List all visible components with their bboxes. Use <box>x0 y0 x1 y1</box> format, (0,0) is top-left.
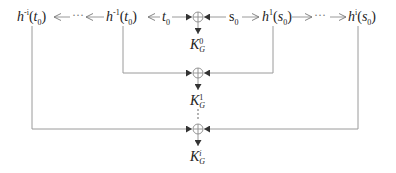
vertical-ellipsis <box>197 109 199 119</box>
ellipsis-right: ··· <box>314 9 326 21</box>
xor-node-0 <box>193 12 203 22</box>
output-k-g-0: K0G <box>190 38 205 54</box>
diagram-lines <box>0 0 396 173</box>
output-k-g-1: K1G <box>190 94 205 110</box>
label-t0: t0 <box>162 10 170 24</box>
label-h-minus-1-t0: h-1(t0) <box>106 10 137 24</box>
label-h-minus-i-t0: h-i(t0) <box>17 10 46 24</box>
output-k-g-i: KiG <box>190 150 205 166</box>
label-h-1-s0: h1(s0) <box>262 10 292 24</box>
label-s0: s0 <box>229 10 238 24</box>
xor-node-i <box>193 124 203 134</box>
label-h-i-s0: hi(s0) <box>348 10 376 24</box>
ellipsis-left: ··· <box>72 9 84 21</box>
xor-node-1 <box>193 68 203 78</box>
